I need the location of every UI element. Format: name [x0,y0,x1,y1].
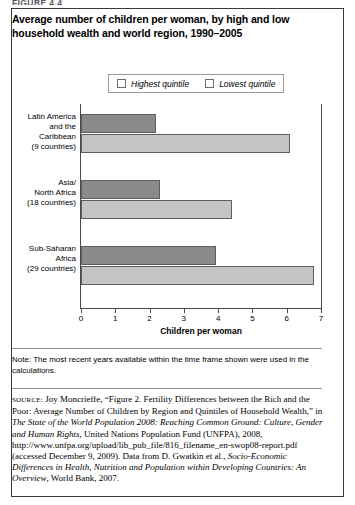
chart-source: SOURCE: Joy Moncrieffe, “Figure 2. Ferti… [12,394,324,485]
note-divider [12,348,322,349]
x-axis-tick [287,309,288,313]
legend-label-lowest-quintile: Lowest quintile [219,79,275,89]
legend-swatch-lowest-quintile [205,79,214,88]
bar-group [81,114,321,158]
x-axis-title: Children per woman [80,326,322,336]
x-axis-tick-label: 7 [319,314,323,323]
x-axis-tick [150,309,151,313]
source-text-3: , World Bank, 2007. [46,473,119,483]
legend-swatch-highest-quintile [117,79,126,88]
x-axis-tick [184,309,185,313]
x-axis-tick [218,309,219,313]
figure-number-label: FIGURE 4.4 [12,0,62,5]
category-label: Sub-SaharanAfrica(29 countries) [12,244,76,274]
bar-group [81,180,321,224]
bar-lowest-quintile [81,134,290,153]
bar-lowest-quintile [81,200,232,219]
x-axis-tick-label: 1 [113,314,117,323]
legend-label-highest-quintile: Highest quintile [131,79,189,89]
x-axis-tick-label: 2 [147,314,151,323]
legend-item-lowest-quintile: Lowest quintile [205,79,275,89]
x-axis-tick-label: 4 [216,314,220,323]
x-axis: Children per woman 01234567 [80,309,322,339]
plot-area [80,104,322,309]
x-axis-tick-label: 3 [182,314,186,323]
legend-item-highest-quintile: Highest quintile [117,79,189,89]
bar-highest-quintile [81,114,156,133]
x-axis-tick-label: 5 [250,314,254,323]
category-label: Latin Americaand theCaribbean(9 countrie… [12,112,76,152]
bar-lowest-quintile [81,266,314,285]
x-axis-tick [115,309,116,313]
plot-wrapper: Latin Americaand theCaribbean(9 countrie… [12,104,322,314]
x-axis-tick-label: 6 [284,314,288,323]
x-axis-tick-label: 0 [79,314,83,323]
x-axis-tick [252,309,253,313]
bar-highest-quintile [81,180,160,199]
bar-group [81,246,321,290]
chart-legend: Highest quintile Lowest quintile [108,74,284,93]
source-prefix: SOURCE: [12,396,43,404]
chart-title: Average number of children per woman, by… [12,12,312,40]
chart-note: Note: The most recent years available wi… [12,355,322,376]
source-divider [12,388,322,389]
x-axis-tick [81,309,82,313]
x-axis-tick [321,309,322,313]
category-label: Asia/North Africa(18 countries) [12,178,76,208]
bar-highest-quintile [81,246,216,265]
source-text-1: Joy Moncrieffe, “Figure 2. Fertility Dif… [12,394,322,416]
